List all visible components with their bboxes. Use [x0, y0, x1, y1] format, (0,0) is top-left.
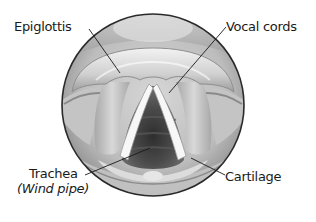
label-epiglottis: Epiglottis [14, 20, 71, 34]
label-trachea-subtext: (Wind pipe) [17, 182, 89, 196]
label-trachea: Trachea [29, 167, 78, 181]
label-vocal-cords: Vocal cords [226, 20, 297, 34]
label-cartilage: Cartilage [225, 170, 281, 184]
larynx-view [60, 10, 250, 200]
larynx-diagram: Epiglottis Vocal cords Trachea (Wind pip… [0, 0, 316, 222]
